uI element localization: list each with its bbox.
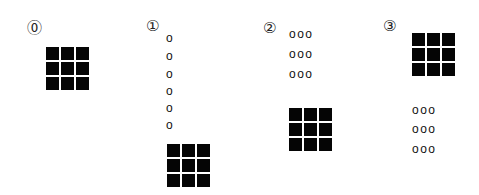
square	[61, 62, 74, 75]
square	[427, 63, 440, 76]
square	[412, 33, 425, 46]
square	[289, 138, 302, 151]
square	[182, 144, 195, 157]
square	[304, 108, 317, 121]
panel-3-label: ③	[383, 19, 396, 34]
square	[76, 77, 89, 90]
panel-3-square-grid	[412, 33, 455, 76]
square	[427, 48, 440, 61]
square	[46, 62, 59, 75]
square	[427, 33, 440, 46]
panel-1-o-row: o	[166, 32, 174, 44]
square	[197, 174, 210, 187]
square	[61, 47, 74, 60]
panel-3-o-row: ooo	[412, 123, 437, 135]
panel-3-o-row: ooo	[412, 104, 437, 116]
square	[289, 123, 302, 136]
square	[182, 159, 195, 172]
panel-1-o-row: o	[166, 68, 174, 80]
square	[304, 138, 317, 151]
panel-1-o-row: o	[166, 50, 174, 62]
square	[412, 48, 425, 61]
panel-2-o-row: ooo	[289, 28, 314, 40]
square	[319, 138, 332, 151]
square	[46, 77, 59, 90]
square	[289, 108, 302, 121]
panel-1-o-row: o	[166, 85, 174, 97]
square	[167, 144, 180, 157]
square	[197, 144, 210, 157]
square	[442, 63, 455, 76]
square	[167, 159, 180, 172]
panel-2-label: ②	[263, 21, 276, 36]
panel-1-square-grid	[167, 144, 210, 187]
square	[412, 63, 425, 76]
panel-2-o-row: ooo	[289, 68, 314, 80]
panel-1-o-row: o	[166, 119, 174, 131]
square	[61, 77, 74, 90]
square	[76, 62, 89, 75]
panel-1-label: ①	[146, 19, 159, 34]
square	[304, 123, 317, 136]
square	[442, 33, 455, 46]
square	[442, 48, 455, 61]
panel-2-o-row: ooo	[289, 48, 314, 60]
panel-0-square-grid	[46, 47, 89, 90]
square	[167, 174, 180, 187]
square	[46, 47, 59, 60]
panel-2-square-grid	[289, 108, 332, 151]
square	[319, 123, 332, 136]
square	[182, 174, 195, 187]
panel-1-o-row: o	[166, 102, 174, 114]
panel-3-o-row: ooo	[412, 143, 437, 155]
square	[76, 47, 89, 60]
square	[197, 159, 210, 172]
panel-0-label: ⓪	[27, 21, 42, 36]
square	[319, 108, 332, 121]
